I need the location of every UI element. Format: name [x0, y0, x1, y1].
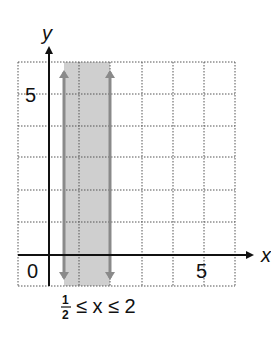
svg-text:2: 2	[62, 308, 69, 322]
y-axis-label: y	[40, 22, 53, 44]
origin-label: 0	[27, 260, 38, 282]
x-tick-5: 5	[196, 260, 207, 282]
graph: y x 0 5 5 1 2 ≤ x ≤ 2	[0, 0, 271, 338]
svg-text:1: 1	[62, 293, 69, 307]
shaded-region	[64, 62, 110, 286]
x-axis-label: x	[260, 244, 271, 266]
svg-text:≤ x ≤ 2: ≤ x ≤ 2	[76, 295, 136, 317]
y-tick-5: 5	[25, 84, 36, 106]
grid	[18, 62, 235, 286]
inequality-caption: 1 2 ≤ x ≤ 2	[61, 293, 136, 322]
